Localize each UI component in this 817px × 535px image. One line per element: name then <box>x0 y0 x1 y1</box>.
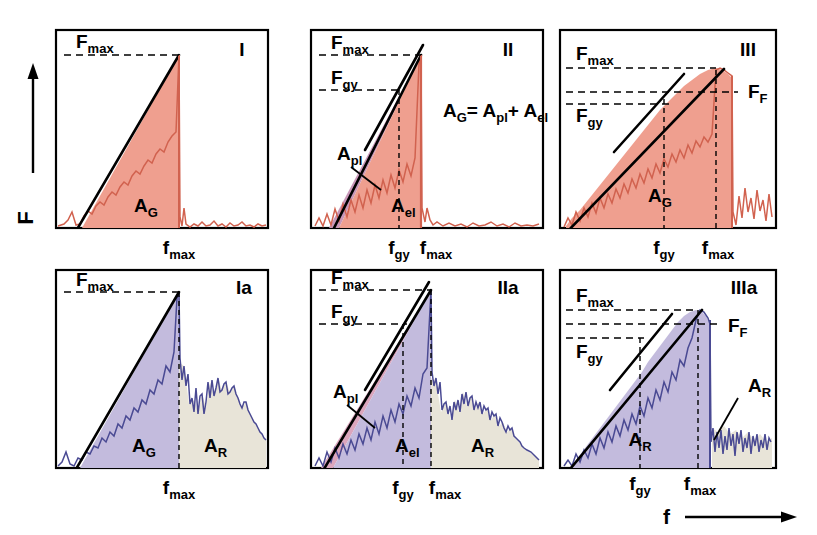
x-axis-arrow-svg: f <box>655 498 815 534</box>
panel-3-fgy-label: Fgy <box>576 105 604 130</box>
panel-2-equation: AG= Apl+ Ael <box>443 100 548 125</box>
panel-2a-fgy-label: Fgy <box>331 301 359 326</box>
panel-2: Fmax Fgy II AG= Apl+ Ael Apl Ael fgy fma… <box>303 12 553 262</box>
panel-3a-area-ar-label: AR <box>748 375 772 400</box>
panel-2a-title: IIa <box>497 277 519 298</box>
panel-3a: Fmax Fgy FF IIIa AR AR fgy fmax <box>552 262 814 522</box>
panel-3-fmax-tick-label: fmax <box>702 237 735 262</box>
panel-1-fmax-tick-label: fmax <box>163 237 196 262</box>
panel-2a: Fmax Fgy IIa Apl Ael AR fgy fmax <box>303 262 553 522</box>
up-arrow-icon <box>28 63 39 173</box>
panel-2-area-apl-label: Apl <box>337 143 362 168</box>
panel-3: Fmax Fgy FF III AG fgy fmax <box>552 12 814 262</box>
panel-2a-fgy-tick-label: fgy <box>392 477 414 502</box>
panel-2-fgy-label: Fgy <box>331 67 359 92</box>
panel-2-fgy-tick-label: fgy <box>388 237 410 262</box>
panel-3-fgy-tick-label: fgy <box>653 237 675 262</box>
panel-3-title: III <box>740 39 756 60</box>
x-axis-group: f <box>655 498 815 534</box>
panel-3a-fgy-label: Fgy <box>576 341 604 366</box>
panel-3-ff-label: FF <box>748 81 768 106</box>
panel-2a-fmax-tick-label: fmax <box>429 477 462 502</box>
x-axis-label: f <box>663 505 671 528</box>
panel-3a-ff-label: FF <box>728 315 748 340</box>
panel-3a-fmax-tick-label: fmax <box>684 473 717 498</box>
panel-2a-area-apl-label: Apl <box>333 381 358 406</box>
panel-3-fmax-label: Fmax <box>576 43 614 68</box>
panel-1a-fmax-tick-label: fmax <box>163 477 196 502</box>
panel-2-fmax-label: Fmax <box>331 32 369 57</box>
panel-3a-fgy-tick-label: fgy <box>629 473 651 498</box>
panel-2-fmax-tick-label: fmax <box>420 237 453 262</box>
panel-1a-fmax-label: Fmax <box>76 269 114 294</box>
panel-1-fmax-label: Fmax <box>76 31 114 56</box>
right-arrow-icon <box>685 512 797 523</box>
panel-3a-fmax-label: Fmax <box>576 285 614 310</box>
figure-container: F Fmax I AG fmax <box>0 0 817 535</box>
panel-1: Fmax I AG fmax <box>46 12 281 262</box>
panel-3a-title: IIIa <box>731 277 758 298</box>
panel-2-title: II <box>503 39 514 60</box>
panel-1a: Fmax Ia AG AR fmax <box>46 262 281 522</box>
panel-1-title: I <box>239 39 244 60</box>
y-axis-label: F <box>13 211 38 224</box>
panel-1a-title: Ia <box>236 277 252 298</box>
